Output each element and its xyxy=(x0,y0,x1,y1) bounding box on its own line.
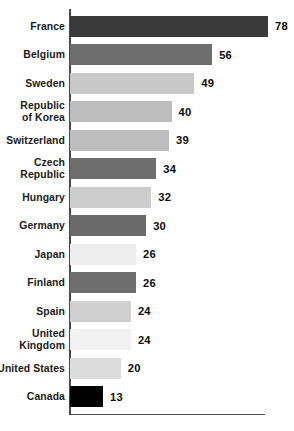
bar xyxy=(70,187,151,208)
category-label: Finland xyxy=(0,269,65,298)
bar xyxy=(70,16,268,37)
category-label-line: of Korea xyxy=(22,112,65,123)
bar-row: Finland26 xyxy=(0,269,294,298)
bar xyxy=(70,73,194,94)
bar-row: CzechRepublic34 xyxy=(0,155,294,184)
bar xyxy=(70,244,136,265)
bar-value-label: 49 xyxy=(201,69,214,98)
category-label: France xyxy=(0,12,65,41)
bar-chart: France78Belgium56Sweden49Republicof Kore… xyxy=(0,0,294,431)
category-label: Spain xyxy=(0,297,65,326)
bar xyxy=(70,272,136,293)
category-label: CzechRepublic xyxy=(0,155,65,184)
category-label: Belgium xyxy=(0,41,65,70)
category-label-line: Czech xyxy=(34,157,65,168)
category-label-line: Belgium xyxy=(23,49,65,60)
category-label: Canada xyxy=(0,383,65,412)
category-label-line: Republic xyxy=(20,169,65,180)
bar-value-label: 39 xyxy=(176,126,189,155)
category-label: Republicof Korea xyxy=(0,98,65,127)
category-label: Hungary xyxy=(0,183,65,212)
bar xyxy=(70,101,172,122)
bar-row: UnitedKingdom24 xyxy=(0,326,294,355)
category-label-line: Finland xyxy=(27,277,65,288)
bar-value-label: 30 xyxy=(153,212,166,241)
category-label: UnitedKingdom xyxy=(0,326,65,355)
bar-value-label: 34 xyxy=(163,155,176,184)
bar-value-label: 78 xyxy=(275,12,288,41)
category-label-line: Japan xyxy=(34,249,65,260)
bar xyxy=(70,358,121,379)
category-label-line: France xyxy=(30,21,65,32)
category-label: United States xyxy=(0,354,65,383)
category-label-line: Canada xyxy=(27,391,65,402)
category-label: Germany xyxy=(0,212,65,241)
plot-area: France78Belgium56Sweden49Republicof Kore… xyxy=(0,0,294,431)
bar-rows: France78Belgium56Sweden49Republicof Kore… xyxy=(0,0,294,431)
bar-value-label: 13 xyxy=(110,383,123,412)
category-label-line: United States xyxy=(0,363,65,374)
bar-row: Sweden49 xyxy=(0,69,294,98)
bar xyxy=(70,301,131,322)
bar-row: Hungary32 xyxy=(0,183,294,212)
bar-row: Switzerland39 xyxy=(0,126,294,155)
bar-value-label: 26 xyxy=(143,269,156,298)
bar-value-label: 26 xyxy=(143,240,156,269)
bar-row: United States20 xyxy=(0,354,294,383)
category-label: Sweden xyxy=(0,69,65,98)
bar xyxy=(70,215,146,236)
category-label: Japan xyxy=(0,240,65,269)
bar-value-label: 56 xyxy=(219,41,232,70)
bar-row: Germany30 xyxy=(0,212,294,241)
bar xyxy=(70,130,169,151)
bar xyxy=(70,329,131,350)
bar xyxy=(70,44,212,65)
bar-value-label: 20 xyxy=(128,354,141,383)
category-label: Switzerland xyxy=(0,126,65,155)
category-label-line: Hungary xyxy=(22,192,65,203)
category-label-line: Germany xyxy=(19,220,65,231)
bar-value-label: 24 xyxy=(138,326,151,355)
bar-row: France78 xyxy=(0,12,294,41)
bar-row: Belgium56 xyxy=(0,41,294,70)
bar xyxy=(70,158,156,179)
category-label-line: Sweden xyxy=(25,78,65,89)
category-label-line: Republic xyxy=(20,100,65,111)
bar-row: Canada13 xyxy=(0,383,294,412)
bar-row: Spain24 xyxy=(0,297,294,326)
category-label-line: Spain xyxy=(36,306,65,317)
bar-row: Republicof Korea40 xyxy=(0,98,294,127)
category-label-line: Kingdom xyxy=(19,340,65,351)
bar-row: Japan26 xyxy=(0,240,294,269)
bar-value-label: 40 xyxy=(179,98,192,127)
bar-value-label: 32 xyxy=(158,183,171,212)
category-label-line: United xyxy=(32,328,65,339)
bar xyxy=(70,386,103,407)
bar-value-label: 24 xyxy=(138,297,151,326)
category-label-line: Switzerland xyxy=(6,135,65,146)
